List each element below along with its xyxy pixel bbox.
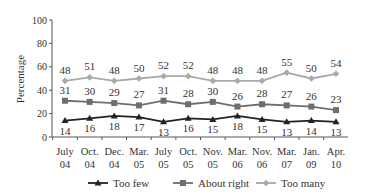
svg-text:Mar.: Mar. [228, 146, 248, 157]
data-label: 18 [109, 120, 121, 132]
y-tick-label: 0 [42, 132, 47, 143]
data-label: 30 [207, 85, 219, 97]
svg-text:09: 09 [306, 159, 317, 170]
data-label: 31 [60, 84, 71, 96]
x-tick-label: Mar.06 [228, 146, 248, 170]
diamond-marker [210, 78, 217, 85]
square-marker [234, 104, 240, 110]
data-label: 18 [232, 120, 244, 132]
svg-text:05: 05 [158, 159, 169, 170]
data-label: 30 [84, 85, 96, 97]
data-label: 31 [158, 84, 169, 96]
svg-text:Mar.: Mar. [277, 146, 297, 157]
square-marker [210, 99, 216, 105]
svg-text:July: July [56, 146, 74, 157]
data-label: 13 [281, 126, 293, 138]
x-tick-label: Nov.06 [252, 146, 272, 170]
diamond-marker [86, 74, 93, 81]
x-tick-label: Oct.05 [179, 146, 197, 170]
data-label: 52 [183, 59, 194, 71]
series-group: 1416181713161518151314133130292731283026… [60, 56, 343, 138]
diamond-marker [160, 73, 167, 80]
data-label: 26 [306, 90, 318, 102]
diamond-marker [136, 75, 143, 82]
legend-item-about-right: About right [173, 177, 249, 189]
y-tick-label: 20 [37, 108, 47, 119]
y-tick-label: 80 [37, 38, 47, 49]
svg-text:05: 05 [183, 159, 194, 170]
legend: Too fewAbout rightToo many [88, 177, 326, 189]
diamond-marker [259, 78, 266, 85]
data-label: 28 [257, 87, 269, 99]
series-too-few: 141618171316151815131413 [60, 112, 343, 137]
square-marker [87, 99, 93, 105]
x-tick-label: Oct.04 [81, 146, 99, 170]
square-marker [185, 101, 191, 107]
svg-text:Nov.: Nov. [252, 146, 272, 157]
x-tick-label: Mar.05 [129, 146, 149, 170]
square-marker [308, 104, 314, 110]
data-label: 50 [306, 62, 318, 74]
data-label: 16 [84, 122, 96, 134]
data-label: 29 [109, 86, 121, 98]
y-tick-label: 60 [37, 61, 47, 72]
data-label: 54 [331, 57, 343, 69]
x-tick-label: Jan.09 [303, 146, 320, 170]
data-label: 48 [60, 64, 72, 76]
svg-text:Mar.: Mar. [129, 146, 149, 157]
data-label: 48 [257, 64, 269, 76]
x-tick-label: Dec.04 [105, 146, 125, 170]
x-tick-label: July04 [56, 146, 74, 170]
svg-text:07: 07 [281, 159, 292, 170]
data-label: 14 [60, 125, 72, 137]
series-line [65, 101, 336, 110]
data-label: 50 [133, 62, 145, 74]
svg-text:04: 04 [60, 159, 71, 170]
diamond-marker [111, 78, 118, 85]
svg-text:10: 10 [331, 159, 342, 170]
legend-item-too-many: Too many [256, 177, 326, 189]
data-label: 23 [331, 93, 343, 105]
square-marker [161, 98, 167, 104]
diamond-marker [333, 71, 340, 78]
legend-item-too-few: Too few [88, 177, 149, 189]
diamond-marker [185, 73, 192, 80]
svg-text:05: 05 [208, 159, 219, 170]
svg-text:Oct.: Oct. [81, 146, 99, 157]
data-label: 27 [281, 88, 293, 100]
square-marker [62, 98, 68, 104]
data-label: 17 [133, 121, 145, 133]
legend-label: Too few [113, 177, 149, 189]
svg-text:Oct.: Oct. [179, 146, 197, 157]
series-line [65, 73, 336, 81]
data-label: 48 [232, 64, 244, 76]
y-tick-label: 40 [37, 85, 47, 96]
line-chart: 020406080100July04Oct.04Dec.04Mar.05July… [0, 0, 368, 195]
data-label: 27 [133, 88, 145, 100]
diamond-marker [308, 75, 315, 82]
square-marker [136, 102, 142, 108]
diamond-marker [283, 69, 290, 76]
data-label: 13 [331, 126, 343, 138]
series-line [65, 116, 336, 122]
data-label: 15 [257, 123, 269, 135]
y-tick-label: 100 [32, 15, 47, 26]
svg-text:06: 06 [257, 159, 268, 170]
data-label: 51 [84, 60, 95, 72]
data-label: 55 [281, 56, 293, 68]
square-marker [333, 107, 339, 113]
data-label: 28 [183, 87, 195, 99]
data-label: 48 [109, 64, 121, 76]
x-tick-label: Mar.07 [277, 146, 297, 170]
legend-label: Too many [281, 177, 326, 189]
series-about-right: 313029273128302628272623 [60, 84, 343, 113]
square-marker [180, 180, 186, 186]
square-marker [259, 101, 265, 107]
legend-label: About right [198, 177, 249, 189]
data-label: 14 [306, 125, 318, 137]
x-tick-label: Apr.10 [327, 146, 345, 170]
diamond-marker [263, 180, 270, 187]
svg-text:July: July [155, 146, 173, 157]
svg-text:Jan.: Jan. [303, 146, 320, 157]
data-label: 13 [158, 126, 170, 138]
